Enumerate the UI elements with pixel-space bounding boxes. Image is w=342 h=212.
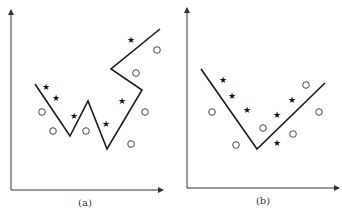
star-point: ★ (288, 95, 296, 105)
circle-point (233, 142, 240, 149)
circle-point (260, 125, 267, 132)
star-point: ★ (102, 119, 110, 129)
circle-point (154, 47, 161, 54)
star-point: ★ (118, 96, 126, 106)
star-point: ★ (273, 110, 281, 120)
panel-b-circles (209, 82, 323, 149)
circle-point (209, 109, 216, 116)
figure-canvas: ★ ★ ★ ★ ★ ★ (a) ★ ★ ★ ★ ★ ★ (0, 0, 342, 212)
circle-point (133, 70, 140, 77)
panel-a-caption: (a) (78, 197, 92, 208)
circle-point (128, 141, 135, 148)
star-point: ★ (52, 93, 60, 103)
circle-point (142, 109, 149, 116)
circle-point (303, 82, 310, 89)
circle-point (50, 128, 57, 135)
circle-point (39, 109, 46, 116)
panel-b: ★ ★ ★ ★ ★ ★ (b) (187, 8, 339, 206)
star-point: ★ (219, 75, 227, 85)
panel-b-caption: (b) (256, 195, 270, 206)
panel-a-decision-boundary (35, 29, 160, 149)
star-point: ★ (127, 35, 135, 45)
star-point: ★ (243, 105, 251, 115)
star-point: ★ (70, 111, 78, 121)
circle-point (290, 131, 297, 138)
circle-point (316, 109, 323, 116)
star-point: ★ (228, 91, 236, 101)
circle-point (83, 128, 90, 135)
panel-a: ★ ★ ★ ★ ★ ★ (a) (11, 10, 163, 208)
star-point: ★ (273, 138, 281, 148)
star-point: ★ (42, 82, 50, 92)
